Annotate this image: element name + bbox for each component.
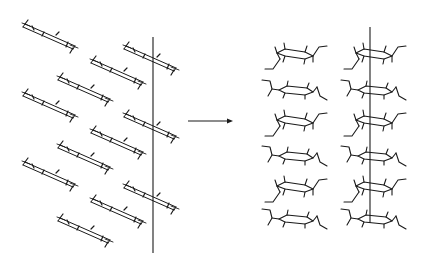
molecule-tilted	[57, 214, 113, 247]
left-panel-molecules	[22, 20, 179, 247]
arrowhead-icon	[227, 119, 233, 124]
molecule-flat	[265, 110, 327, 136]
molecule-flat	[341, 80, 406, 100]
molecule-tilted	[57, 141, 113, 174]
molecule-tilted	[123, 42, 179, 75]
molecule-flat	[344, 176, 406, 202]
transformation-arrow	[188, 119, 233, 124]
molecule-tilted	[123, 181, 179, 214]
molecule-flat	[341, 146, 406, 166]
molecule-tilted	[90, 56, 146, 89]
molecule-tilted	[57, 73, 113, 106]
molecule-flat	[262, 146, 327, 166]
molecule-flat	[344, 43, 406, 69]
right-panel-molecules	[262, 43, 406, 229]
molecule-tilted	[22, 158, 78, 191]
molecule-tilted	[123, 110, 179, 143]
molecule-flat	[265, 176, 327, 202]
molecule-flat	[341, 209, 406, 229]
molecule-flat	[344, 110, 406, 136]
molecule-tilted	[22, 89, 78, 122]
molecule-flat	[262, 80, 327, 100]
molecule-tilted	[90, 195, 146, 228]
molecule-tilted	[22, 20, 78, 53]
molecule-flat	[265, 43, 327, 69]
molecule-flat	[262, 209, 327, 229]
packing-diagram	[0, 0, 426, 266]
molecule-tilted	[90, 126, 146, 159]
